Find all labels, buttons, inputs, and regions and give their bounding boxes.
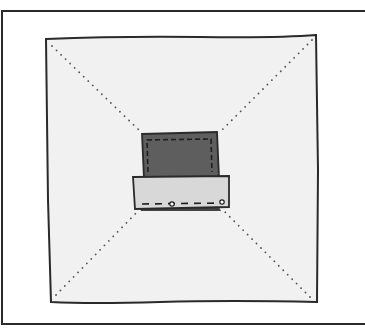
pin-icon [220, 200, 224, 204]
pocket-back [142, 132, 219, 179]
pin-icon [170, 202, 174, 206]
pocket-flap [133, 176, 229, 211]
diagram-canvas [0, 0, 365, 329]
